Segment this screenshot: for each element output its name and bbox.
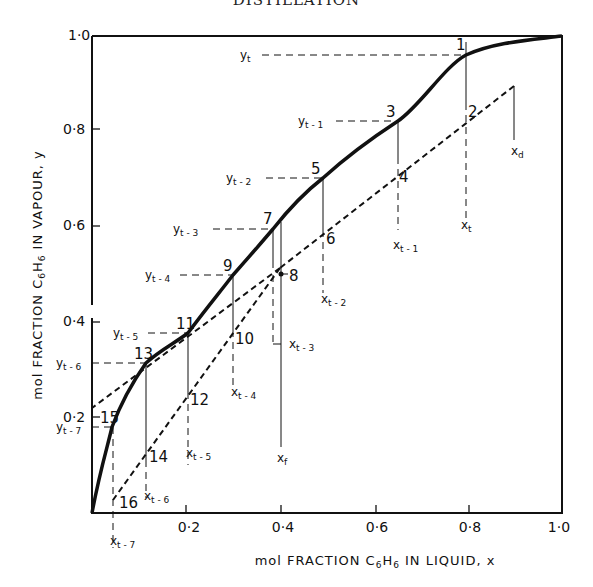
point-5: 5 <box>311 160 321 178</box>
point-4: 4 <box>399 168 409 186</box>
label-yt-4: yt - 4 <box>145 268 171 284</box>
label-xt-3: xt - 3 <box>289 337 314 353</box>
label-yt-5: yt - 5 <box>113 326 138 342</box>
point-16: 16 <box>119 494 138 512</box>
point-11: 11 <box>176 315 195 333</box>
label-yt-2: yt - 2 <box>226 171 251 187</box>
y-tick-0-4: 0·4 <box>63 313 85 329</box>
point-12: 12 <box>190 391 209 409</box>
point-2: 2 <box>468 103 478 121</box>
x-construction-dashed <box>113 103 466 548</box>
label-xt-2: xt - 2 <box>321 292 346 308</box>
label-yt-1: yt - 1 <box>298 114 323 130</box>
point-6: 6 <box>326 230 336 248</box>
point-9: 9 <box>223 257 233 275</box>
label-yt-6: yt - 6 <box>56 356 82 372</box>
feed-point-marker <box>279 272 284 277</box>
label-xt-4: xt - 4 <box>231 385 257 401</box>
mccabe-thiele-chart: 1·0 0·8 0·6 0·4 0·2 0·2 0·4 0·6 0·8 1·0 … <box>0 0 593 587</box>
y-axis-title: mol FRACTION C6H6 IN VAPOUR, y <box>30 150 47 400</box>
x-tick-0-8: 0·8 <box>459 519 481 535</box>
label-xt-7: xt - 7 <box>110 534 135 550</box>
y-tick-0-8: 0·8 <box>63 121 85 137</box>
point-1: 1 <box>456 36 466 54</box>
point-10: 10 <box>235 330 254 348</box>
point-7: 7 <box>263 210 273 228</box>
x-tick-0-2: 0·2 <box>178 519 200 535</box>
point-8: 8 <box>289 267 299 285</box>
x-tick-1-0: 1·0 <box>548 519 570 535</box>
x-axis-title: mol FRACTION C6H6 IN LIQUID, x <box>255 553 496 570</box>
stripping-operating-line <box>113 268 280 500</box>
label-yt: yt <box>240 48 251 64</box>
label-xt-5: xt - 5 <box>186 446 211 462</box>
y-tick-0-2: 0·2 <box>63 409 85 425</box>
x-tick-labels: 0·2 0·4 0·6 0·8 1·0 <box>178 519 570 535</box>
point-3: 3 <box>386 103 396 121</box>
point-14: 14 <box>149 448 168 466</box>
x-tick-0-6: 0·6 <box>366 519 388 535</box>
label-xf: xf <box>277 451 288 467</box>
label-xd: xd <box>511 144 524 160</box>
y-annotation-labels: yt yt - 1 yt - 2 yt - 3 yt - 4 yt - 5 yt… <box>56 48 323 436</box>
y-tick-1-0: 1·0 <box>68 27 90 43</box>
operating-lines <box>92 86 514 500</box>
x-annotation-labels: xd xt xt - 1 xt - 2 xt - 3 xt - 4 xf xt … <box>110 144 524 550</box>
label-xt: xt <box>461 218 472 234</box>
label-xt-6: xt - 6 <box>144 489 170 505</box>
point-13: 13 <box>134 345 153 363</box>
point-15: 15 <box>100 409 119 427</box>
x-tick-0-4: 0·4 <box>272 519 294 535</box>
label-yt-3: yt - 3 <box>173 222 198 238</box>
label-xt-1: xt - 1 <box>393 238 418 254</box>
y-tick-0-6: 0·6 <box>63 217 85 233</box>
